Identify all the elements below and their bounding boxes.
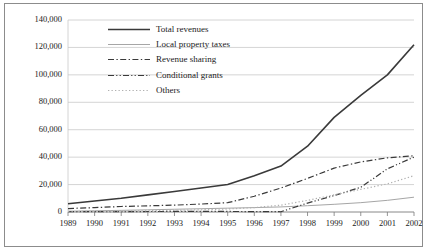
legend-label: Local property taxes: [156, 39, 230, 49]
y-tick-label-140000: 140,000: [6, 15, 62, 24]
y-tick-label-100000: 100,000: [6, 70, 62, 79]
x-tick-label-2002: 2002: [398, 219, 428, 228]
x-axis-tick-marks: [68, 212, 414, 216]
legend-label: Revenue sharing: [156, 54, 216, 64]
line-chart-figure: 020,00040,00060,00080,000100,000120,0001…: [0, 0, 428, 252]
y-tick-label-40000: 40,000: [6, 152, 62, 161]
legend-item-revenue-sharing: Revenue sharing: [108, 52, 278, 67]
dashdotdot-line-sample: [108, 68, 150, 83]
series-line-revenue-sharing: [68, 156, 414, 209]
legend-item-total-revenues: Total revenues: [108, 22, 278, 37]
dashdot-line-sample: [108, 52, 150, 67]
solid-gray-line-sample: [108, 37, 150, 52]
chart-legend: Total revenuesLocal property taxesRevenu…: [108, 22, 278, 98]
legend-item-conditional-grants: Conditional grants: [108, 68, 278, 83]
y-tick-label-20000: 20,000: [6, 180, 62, 189]
legend-label: Conditional grants: [156, 70, 223, 80]
y-tick-label-60000: 60,000: [6, 125, 62, 134]
solid-dark-line-sample: [108, 22, 150, 37]
legend-label: Total revenues: [156, 24, 209, 34]
y-tick-label-0: 0: [6, 207, 62, 216]
dotted-line-sample: [108, 83, 150, 98]
legend-label: Others: [156, 85, 180, 95]
y-tick-label-80000: 80,000: [6, 97, 62, 106]
y-tick-label-120000: 120,000: [6, 42, 62, 51]
legend-item-local-property-taxes: Local property taxes: [108, 37, 278, 52]
legend-item-others: Others: [108, 83, 278, 98]
